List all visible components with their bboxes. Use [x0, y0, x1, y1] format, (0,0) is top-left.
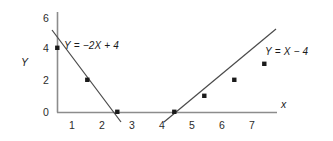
data-point-marker [262, 62, 266, 66]
x-tick-label-7: 7 [249, 120, 255, 131]
x-tick-label-1: 1 [69, 120, 75, 131]
y-tick-label-4: 4 [43, 43, 49, 54]
x-tick-label-2: 2 [99, 120, 105, 131]
x-tick-label-6: 6 [219, 120, 225, 131]
x-tick-label-4: 4 [159, 120, 165, 131]
chart-container: Y x 6 4 2 0 1 2 3 4 5 6 7 Y = −2X + 4 Y … [0, 0, 333, 141]
x-axis-label: x [281, 99, 286, 110]
data-point-marker [202, 94, 206, 98]
data-point-marker [172, 110, 176, 114]
x-tick-label-5: 5 [189, 120, 195, 131]
series-line-ascending [164, 29, 276, 122]
data-point-marker [115, 110, 119, 114]
y-tick-label-6: 6 [43, 13, 49, 24]
equation-label-ascending: Y = X − 4 [265, 47, 308, 57]
x-tick-label-3: 3 [129, 120, 135, 131]
data-point-marker [232, 78, 236, 82]
data-point-marker [55, 46, 59, 50]
chart-plot-area [0, 0, 333, 141]
y-tick-label-2: 2 [43, 75, 49, 86]
data-point-marker [85, 78, 89, 82]
y-tick-label-0: 0 [43, 107, 49, 118]
equation-label-descending: Y = −2X + 4 [64, 41, 119, 51]
y-axis-label: Y [21, 57, 28, 68]
